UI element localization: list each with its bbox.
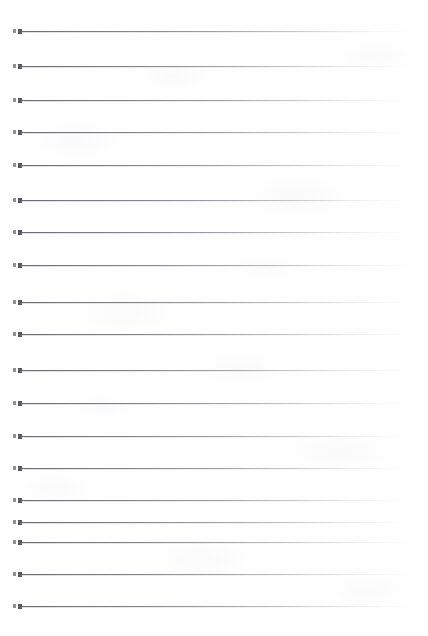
rule-line-shadow [20,501,392,502]
rule-line-shadow [20,266,392,267]
rule-tick-outer-icon [13,98,16,102]
rule-tick-outer-icon [13,300,16,304]
rule-tick-outer-icon [13,498,16,502]
rule-tick-outer-icon [13,540,16,544]
rule-tick-outer-icon [13,332,16,336]
rule-line-stroke [18,334,412,335]
rule-tick-outer-icon [13,368,16,372]
rule-line-8 [0,262,428,269]
rule-line-16 [0,519,428,526]
rule-line-stroke [18,606,412,607]
rule-tick-outer-icon [13,29,16,33]
rule-line-shadow [20,575,392,576]
rule-line-shadow [20,303,392,304]
rule-line-shadow [20,133,392,134]
rule-line-shadow [20,543,392,544]
rule-line-stroke [18,370,412,371]
page-title [0,0,1,1]
rule-line-shadow [20,101,392,102]
rule-line-shadow [20,371,392,372]
rule-line-9 [0,299,428,306]
rule-tick-outer-icon [13,130,16,134]
rule-line-stroke [18,500,412,501]
rule-line-shadow [20,607,392,608]
rule-line-stroke [18,302,412,303]
rule-line-6 [0,197,428,204]
rule-line-7 [0,229,428,236]
rule-tick-outer-icon [13,230,16,234]
rule-line-stroke [18,468,412,469]
rule-tick-outer-icon [13,401,16,405]
rule-line-shadow [20,469,392,470]
rule-line-shadow [20,523,392,524]
rule-line-stroke [18,165,412,166]
rule-line-12 [0,400,428,407]
rule-tick-outer-icon [13,604,16,608]
rule-line-shadow [20,404,392,405]
rule-line-stroke [18,574,412,575]
rule-line-11 [0,367,428,374]
rule-line-stroke [18,522,412,523]
rule-line-stroke [18,66,412,67]
rule-tick-outer-icon [13,64,16,68]
rule-line-stroke [18,132,412,133]
rule-line-3 [0,97,428,104]
rule-tick-outer-icon [13,466,16,470]
rule-line-shadow [20,233,392,234]
rule-tick-outer-icon [13,263,16,267]
rule-line-stroke [18,232,412,233]
rule-line-17 [0,539,428,546]
rule-line-stroke [18,100,412,101]
rule-line-18 [0,571,428,578]
rule-line-10 [0,331,428,338]
rule-line-1 [0,28,428,35]
rule-line-13 [0,433,428,440]
rule-line-19 [0,603,428,610]
rule-line-shadow [20,437,392,438]
rule-tick-outer-icon [13,198,16,202]
rule-line-stroke [18,436,412,437]
rule-tick-outer-icon [13,163,16,167]
scanned-page [0,0,428,636]
rule-line-2 [0,63,428,70]
rule-line-stroke [18,31,412,32]
rule-tick-outer-icon [13,434,16,438]
rule-line-shadow [20,166,392,167]
rule-line-14 [0,465,428,472]
rule-line-stroke [18,200,412,201]
rule-line-stroke [18,265,412,266]
rule-line-shadow [20,335,392,336]
rule-line-stroke [18,542,412,543]
rule-line-shadow [20,201,392,202]
rule-tick-outer-icon [13,572,16,576]
rule-line-shadow [20,32,392,33]
rule-line-15 [0,497,428,504]
rule-line-5 [0,162,428,169]
rule-tick-outer-icon [13,520,16,524]
rule-line-stroke [18,403,412,404]
rule-line-shadow [20,67,392,68]
rule-line-4 [0,129,428,136]
page-visible-text [0,0,1,1]
